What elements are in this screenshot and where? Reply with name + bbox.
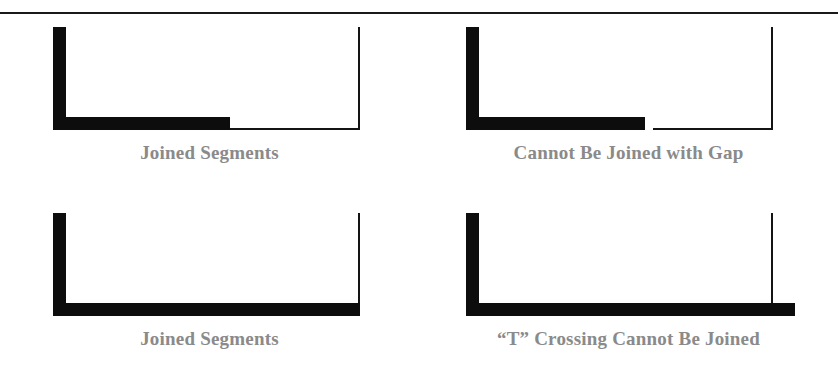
figure-panel-joined-segments-bottom: Joined Segments [0, 210, 419, 370]
thin-horizontal-segment [230, 128, 360, 130]
thick-horizontal-segment [53, 117, 230, 130]
diagram-canvas [419, 210, 838, 322]
panel-caption: Cannot Be Joined with Gap [419, 142, 838, 164]
thick-vertical-segment [466, 27, 479, 130]
thin-horizontal-segment [653, 128, 773, 130]
thin-vertical-segment [358, 27, 360, 130]
thick-horizontal-segment [466, 303, 795, 316]
horizontal-rule [0, 12, 838, 14]
thick-vertical-segment [53, 27, 66, 130]
panel-caption: Joined Segments [0, 328, 419, 350]
figure-panel-joined-segments-top: Joined Segments [0, 24, 419, 184]
thin-vertical-segment [358, 213, 360, 303]
panel-caption: “T” Crossing Cannot Be Joined [419, 328, 838, 350]
diagram-canvas [0, 24, 419, 136]
diagram-canvas [0, 210, 419, 322]
thick-vertical-segment [466, 213, 479, 316]
thick-vertical-segment [53, 213, 66, 316]
diagram-canvas [419, 24, 838, 136]
thick-horizontal-segment [466, 117, 645, 130]
figure-panel-cannot-be-joined-with-gap: Cannot Be Joined with Gap [419, 24, 838, 184]
thin-vertical-segment [771, 213, 773, 303]
figure-panel-t-crossing-cannot-be-joined: “T” Crossing Cannot Be Joined [419, 210, 838, 370]
panel-caption: Joined Segments [0, 142, 419, 164]
thick-horizontal-segment [53, 303, 360, 316]
thin-vertical-segment [771, 27, 773, 130]
